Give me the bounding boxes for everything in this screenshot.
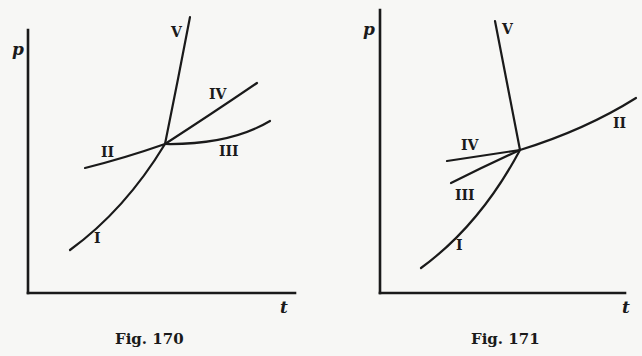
- curve-V-171: [495, 21, 520, 150]
- curve-I-171: [421, 150, 520, 268]
- curve-label-III-170: III: [219, 143, 239, 159]
- curve-label-I-171: I: [456, 237, 463, 253]
- curve-label-II-170: II: [101, 144, 114, 160]
- y-axis-label-170: p: [12, 39, 24, 59]
- curve-label-IV-170: IV: [209, 86, 228, 102]
- y-axis-label-171: p: [363, 19, 375, 39]
- caption-171: Fig. 171: [471, 330, 540, 348]
- curve-label-IV-171: IV: [461, 137, 480, 153]
- curve-label-III-171: III: [455, 187, 475, 203]
- caption-170: Fig. 170: [115, 330, 184, 348]
- figure-pair: p t V IV II III I Fig. 170 p t V: [0, 0, 642, 356]
- x-axis-label-170: t: [280, 297, 288, 317]
- curve-label-II-171: II: [613, 115, 626, 131]
- figure-170: p t V IV II III I Fig. 170: [12, 17, 295, 348]
- x-axis-label-171: t: [622, 297, 630, 317]
- curve-label-V-171: V: [501, 21, 514, 37]
- curve-label-V-170: V: [170, 24, 183, 40]
- figure-171: p t V II IV III I Fig. 171: [363, 10, 636, 348]
- curve-label-I-170: I: [94, 230, 101, 246]
